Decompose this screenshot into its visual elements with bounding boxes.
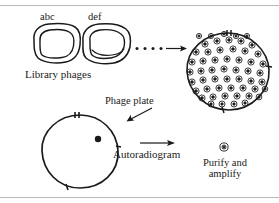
library-phage-plaque-abc <box>34 24 80 63</box>
autoradiogram-circle <box>42 112 121 190</box>
phage-screening-diagram: abc def Library phages Phage plate Autor… <box>0 0 279 203</box>
label-def: def <box>88 11 101 22</box>
label-autoradiogram: Autoradiogram <box>113 149 180 161</box>
label-purify-and-amplify: Purify and amplify <box>192 157 258 180</box>
label-phage-plate: Phage plate <box>105 95 154 106</box>
positive-signal-dot <box>95 136 101 142</box>
library-phage-plaque-def <box>83 24 131 64</box>
phage-plate-circle <box>187 30 272 113</box>
ellipsis-dots <box>136 47 163 50</box>
arrow-to-phage-plate <box>166 46 187 52</box>
purified-single-plaque <box>220 143 228 151</box>
arrow-phage-plate-label <box>127 108 153 121</box>
label-library-phages: Library phages <box>25 69 91 81</box>
arrow-to-purify <box>140 140 175 146</box>
label-abc: abc <box>40 11 55 22</box>
